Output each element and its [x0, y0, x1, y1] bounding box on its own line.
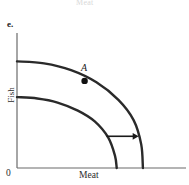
y-axis-label: Fish	[6, 75, 16, 115]
ppf-figure: Meat e. A Fish Meat 0	[0, 0, 189, 185]
point-a-label: A	[81, 62, 87, 73]
plot-canvas	[0, 0, 189, 185]
ppf-curve-shifted	[17, 61, 143, 168]
x-axis-label: Meat	[79, 170, 99, 180]
shift-arrow-icon	[107, 133, 139, 140]
point-a-marker	[81, 78, 87, 84]
ppf-curve-original	[17, 97, 117, 168]
origin-label: 0	[6, 168, 11, 178]
